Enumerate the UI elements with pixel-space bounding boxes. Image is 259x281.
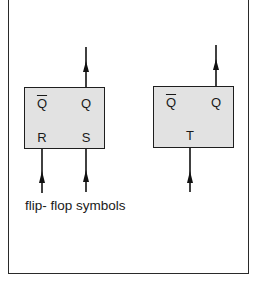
t-q-output-arrow xyxy=(213,45,219,86)
rs-r-input-arrow xyxy=(39,149,45,193)
t-q-bar-label: Q xyxy=(166,96,176,109)
rs-s-label: S xyxy=(82,131,91,144)
rs-s-input-arrow xyxy=(83,149,89,192)
rs-r-label: R xyxy=(37,131,46,144)
rs-q-label: Q xyxy=(81,97,91,110)
diagram-caption: flip- flop symbols xyxy=(25,198,126,213)
rs-q-output-arrow xyxy=(83,47,89,87)
rs-q-bar-label: Q xyxy=(37,97,47,110)
t-input-arrow xyxy=(187,148,193,192)
t-q-label: Q xyxy=(211,96,221,109)
t-t-label: T xyxy=(186,129,194,142)
